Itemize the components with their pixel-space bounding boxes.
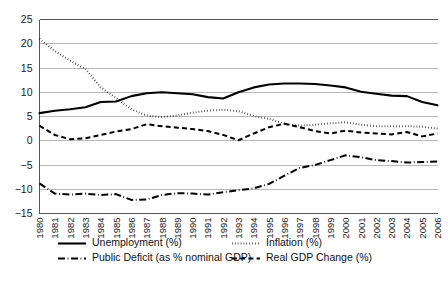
series-line-0	[40, 84, 438, 114]
legend-label-0: Unemployment (%)	[92, 236, 182, 248]
legend-label-2: Public Deficit (as % nominal GDP)	[92, 251, 251, 263]
x-axis-tick-label: 1980	[34, 218, 45, 239]
x-axis-tick-label: 1981	[49, 218, 60, 239]
x-axis-tick-label: 2005	[417, 218, 428, 239]
series-line-1	[40, 39, 438, 129]
y-axis-tick-label: 10	[21, 86, 33, 98]
x-axis-tick-label: 2001	[356, 218, 367, 239]
series-line-3	[40, 124, 438, 140]
x-axis-tick-label: 1999	[325, 218, 336, 239]
legend-label-3: Real GDP Change (%)	[266, 251, 372, 263]
x-axis-tick-label: 1992	[218, 218, 229, 239]
y-axis-tick-label: 20	[21, 37, 33, 49]
x-axis-tick-label: 2006	[432, 218, 443, 239]
x-axis-tick-label: 2003	[386, 218, 397, 239]
y-axis-tick-label: −15	[15, 207, 33, 219]
x-axis-tick-label: 1990	[187, 218, 198, 239]
x-axis-tick-label: 2004	[401, 218, 412, 239]
y-axis-tick-label: 0	[27, 134, 33, 146]
economic-indicators-line-chart: 2520151050−5−10−151980198119821983198419…	[0, 0, 448, 282]
series-line-2	[40, 155, 438, 200]
x-axis-tick-label: 1993	[233, 218, 244, 239]
y-axis-tick-label: −10	[15, 183, 33, 195]
x-axis-tick-label: 1991	[202, 218, 213, 239]
x-axis-tick-label: 2000	[340, 218, 351, 239]
y-axis-tick-label: 15	[21, 62, 33, 74]
y-axis-tick-label: −5	[21, 159, 33, 171]
x-axis-tick-label: 1983	[80, 218, 91, 239]
x-axis-tick-label: 1982	[65, 218, 76, 239]
legend-label-1: Inflation (%)	[266, 236, 322, 248]
y-axis-tick-label: 25	[21, 13, 33, 25]
x-axis-tick-label: 2002	[371, 218, 382, 239]
figure: 2520151050−5−10−151980198119821983198419…	[0, 0, 448, 282]
x-axis-tick-label: 1994	[248, 218, 259, 239]
y-axis-tick-label: 5	[27, 110, 33, 122]
